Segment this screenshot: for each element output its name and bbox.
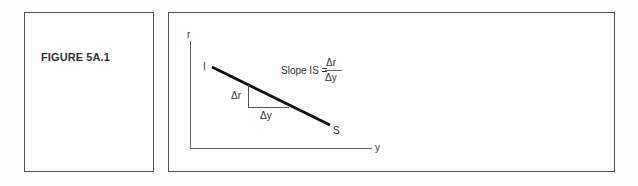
curve-label-i: I: [203, 61, 206, 72]
y-axis-label: r: [187, 29, 191, 40]
x-axis-label: y: [375, 142, 380, 153]
curve-label-s: S: [333, 125, 340, 136]
slope-denominator: Δy: [325, 72, 337, 83]
rise-label: Δr: [231, 90, 242, 101]
is-curve-diagram: r y I S Δr Δy Slope IS = Δr Δy: [0, 0, 638, 186]
slope-numerator: Δr: [326, 57, 337, 68]
run-label: Δy: [260, 110, 272, 121]
slope-text: Slope IS =: [281, 65, 328, 76]
